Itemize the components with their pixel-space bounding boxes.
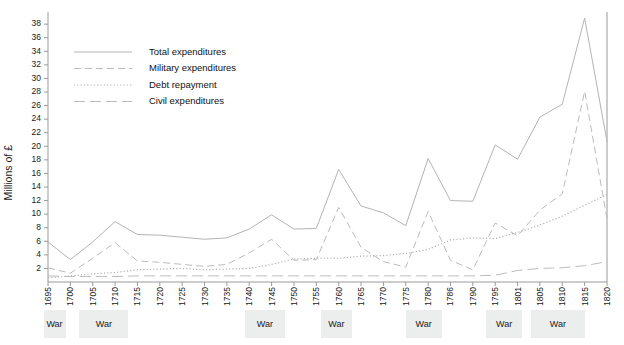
x-tick-label: 1755: [311, 287, 321, 306]
x-tick-label: 1780: [423, 287, 433, 306]
war-band: War: [406, 310, 442, 338]
series-line-military-expenditures: [48, 91, 607, 273]
x-tick-label: 1715: [132, 287, 142, 306]
legend-label-2: Military expenditures: [149, 62, 236, 73]
x-tick-label: 1725: [177, 287, 187, 306]
y-tick-label: 4: [36, 249, 41, 259]
y-tick-label: 6: [36, 236, 41, 246]
y-tick-label: 34: [32, 46, 42, 56]
war-band-label: War: [328, 319, 344, 329]
y-tick-label: 2: [36, 263, 41, 273]
war-band: War: [321, 310, 352, 338]
x-tick-label: 1720: [155, 287, 165, 306]
y-tick-label: 38: [32, 18, 42, 28]
y-tick-label: 24: [32, 113, 42, 123]
x-tick-label: 1750: [289, 287, 299, 306]
x-tick-label: 1775: [401, 287, 411, 306]
x-tick-label: 1710: [110, 287, 120, 306]
x-tick-label: 1786: [445, 287, 455, 306]
series-line-total-expenditures: [48, 18, 607, 260]
x-tick-label: 1801: [513, 287, 523, 306]
y-tick-label: 28: [32, 86, 42, 96]
war-band: War: [531, 310, 585, 338]
x-tick-label: 1735: [222, 287, 232, 306]
war-band-label: War: [496, 319, 512, 329]
x-tick-label: 1730: [200, 287, 210, 306]
x-tick-label: 1790: [468, 287, 478, 306]
y-tick-label: 10: [32, 208, 42, 218]
expenditures-line-chart: Millions of £ 24681012141618202224262830…: [0, 0, 624, 345]
war-band-label: War: [96, 319, 112, 329]
war-band: War: [486, 310, 522, 338]
y-tick-label: 36: [32, 32, 42, 42]
y-axis-ticks: 2468101214161820222426283032343638: [32, 18, 48, 272]
x-tick-label: 1760: [334, 287, 344, 306]
y-tick-label: 12: [32, 195, 42, 205]
x-tick-label: 1795: [490, 287, 500, 306]
y-tick-label: 20: [32, 141, 42, 151]
legend: Total expendituresMilitary expendituresD…: [74, 46, 236, 107]
war-band-label: War: [257, 319, 273, 329]
x-tick-label: 1695: [43, 287, 53, 306]
x-tick-label: 1745: [267, 287, 277, 306]
x-tick-label: 1765: [356, 287, 366, 306]
series-line-civil-expenditures: [48, 262, 607, 277]
war-band: War: [79, 310, 128, 338]
y-tick-label: 18: [32, 154, 42, 164]
y-tick-label: 14: [32, 181, 42, 191]
x-axis-ticks: [48, 282, 607, 286]
x-tick-label: 1705: [88, 287, 98, 306]
war-band-label: War: [550, 319, 566, 329]
y-tick-label: 22: [32, 127, 42, 137]
y-tick-label: 30: [32, 73, 42, 83]
series-line-debt-repayment: [48, 194, 607, 277]
war-band-label: War: [46, 319, 62, 329]
x-tick-label: 1700: [65, 287, 75, 306]
y-tick-label: 16: [32, 168, 42, 178]
y-tick-label: 8: [36, 222, 41, 232]
x-tick-label: 1820: [602, 287, 612, 306]
legend-label-3: Debt repayment: [149, 79, 217, 90]
x-tick-label: 1770: [378, 287, 388, 306]
y-tick-label: 26: [32, 100, 42, 110]
series-group: [48, 18, 607, 278]
war-band: War: [245, 310, 285, 338]
y-tick-label: 32: [32, 59, 42, 69]
x-tick-label: 1815: [580, 287, 590, 306]
x-tick-label: 1805: [535, 287, 545, 306]
war-band: War: [44, 310, 66, 338]
war-band-label: War: [416, 319, 432, 329]
legend-label-1: Total expenditures: [149, 46, 226, 57]
x-tick-label: 1810: [557, 287, 567, 306]
legend-label-4: Civil expenditures: [149, 95, 224, 106]
x-tick-label: 1740: [244, 287, 254, 306]
